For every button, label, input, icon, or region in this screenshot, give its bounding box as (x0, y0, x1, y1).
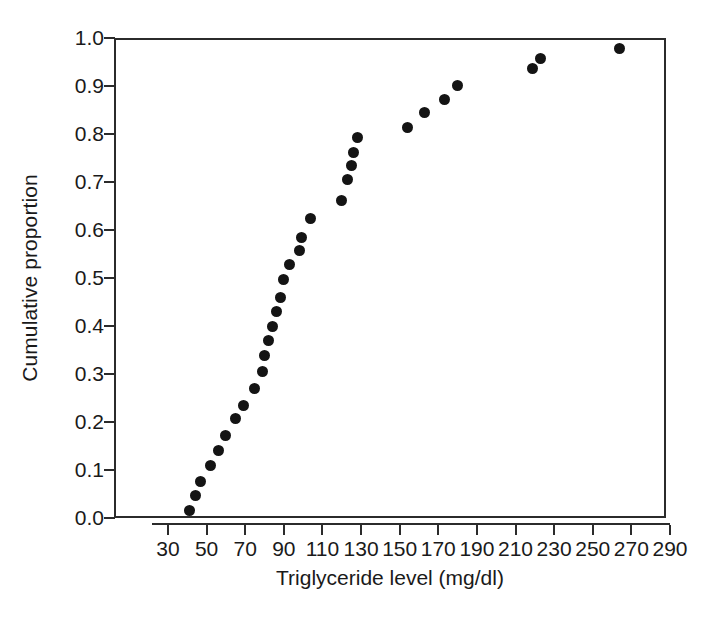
x-axis-tick-mark (167, 525, 169, 535)
y-axis-tick-label: 1.0 (52, 27, 104, 48)
x-axis-tick-mark (399, 525, 401, 535)
y-axis-tick-label: 0.7 (52, 171, 104, 192)
y-axis-tick-label: 0.2 (52, 411, 104, 432)
x-axis-title: Triglyceride level (mg/dl) (114, 566, 666, 590)
scatter-point (402, 122, 413, 133)
x-axis-tick-mark (553, 525, 555, 535)
scatter-point (275, 292, 286, 303)
scatter-point (348, 147, 359, 158)
scatter-point (271, 306, 282, 317)
scatter-point (205, 460, 216, 471)
scatter-point (527, 63, 538, 74)
scatter-point (439, 94, 450, 105)
scatter-point (284, 259, 295, 270)
y-axis-tick-labels: 0.00.10.20.30.40.50.60.70.80.91.0 (48, 0, 104, 618)
scatter-point (346, 160, 357, 171)
y-axis-tick-label: 0.9 (52, 75, 104, 96)
y-axis-tick-label: 0.8 (52, 123, 104, 144)
scatter-point (419, 107, 430, 118)
y-axis-tick-label: 0.1 (52, 459, 104, 480)
x-axis-tick-mark (244, 525, 246, 535)
scatter-point (238, 400, 249, 411)
x-axis-tick-mark (515, 525, 517, 535)
scatter-point (352, 132, 363, 143)
x-axis-tick-mark (206, 525, 208, 535)
scatter-point (257, 366, 268, 377)
y-axis-title-wrapper: Cumulative proportion (8, 38, 52, 518)
scatter-point (230, 413, 241, 424)
scatter-point (190, 490, 201, 501)
x-axis-tick-mark (360, 525, 362, 535)
scatter-point (263, 335, 274, 346)
x-axis-tick-mark (669, 525, 671, 535)
scatter-point (296, 232, 307, 243)
y-axis-tick-label: 0.0 (52, 507, 104, 528)
scatter-point (535, 53, 546, 64)
scatter-point (614, 43, 625, 54)
y-axis-tick-label: 0.6 (52, 219, 104, 240)
plot-area (114, 38, 666, 518)
x-axis-tick-mark (592, 525, 594, 535)
x-axis-tick-label: 290 (640, 537, 700, 560)
y-axis-tick-label: 0.5 (52, 267, 104, 288)
scatter-point (195, 476, 206, 487)
scatter-point (336, 195, 347, 206)
scatter-point (259, 350, 270, 361)
scatter-point (249, 383, 260, 394)
y-axis-tick-label: 0.4 (52, 315, 104, 336)
scatter-point (220, 430, 231, 441)
scatter-point (184, 505, 195, 516)
x-axis-tick-mark (321, 525, 323, 535)
scatter-point (267, 321, 278, 332)
scatter-point (305, 213, 316, 224)
chart-figure: Cumulative proportion 0.00.10.20.30.40.5… (0, 0, 715, 618)
x-axis-tick-mark (476, 525, 478, 535)
x-axis-tick-mark (437, 525, 439, 535)
x-axis-tick-mark (283, 525, 285, 535)
x-axis-tick-mark (630, 525, 632, 535)
y-axis-title: Cumulative proportion (8, 38, 52, 518)
scatter-point (278, 274, 289, 285)
scatter-point (342, 174, 353, 185)
y-axis-tick-label: 0.3 (52, 363, 104, 384)
scatter-point (452, 80, 463, 91)
scatter-point (294, 245, 305, 256)
scatter-point (213, 445, 224, 456)
